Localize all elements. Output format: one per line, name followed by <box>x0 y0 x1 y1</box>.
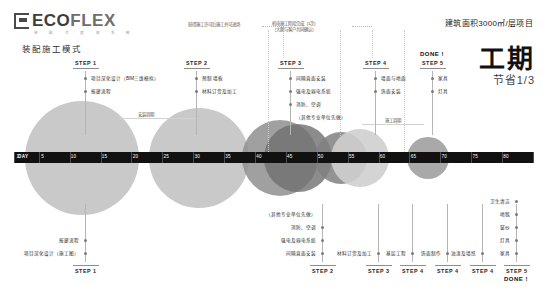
step-item-label: 卫生清洁 <box>490 199 510 205</box>
axis-tick <box>39 152 40 163</box>
logo-wordmark: ECOFLEX <box>32 12 116 30</box>
step-bullet-icon <box>84 77 87 80</box>
step-item-label: 材料订货及加工 <box>337 251 372 257</box>
step-item-label: 地毯 <box>500 212 510 218</box>
axis-tick-label: 50 <box>318 154 324 159</box>
step-bullet-icon <box>446 252 449 255</box>
step-item-label: 灯具 <box>438 89 448 95</box>
step-rule <box>504 265 530 266</box>
logo-tagline: 装 配 式 建 筑 系 统 <box>34 30 136 35</box>
connector-line <box>262 26 284 27</box>
step-item-label: 材料订货及加工 <box>202 89 237 95</box>
step-item-label: 消防、空调 <box>296 102 321 108</box>
done-badge: DONE ! <box>420 51 444 57</box>
step-bullet-icon <box>84 252 87 255</box>
step-item-label: 基层工程 <box>386 251 406 257</box>
step-rule <box>470 265 496 266</box>
step-rule <box>420 68 446 69</box>
step-item-label: 报建流程 <box>91 89 111 95</box>
step-bullet-icon <box>84 90 87 93</box>
step-bullet-icon <box>195 90 198 93</box>
step-stem <box>85 71 86 135</box>
axis-tick-label: 1 <box>17 154 20 159</box>
step-item-label: 窗纱 <box>500 225 510 231</box>
annotation-note: 安装周期 <box>138 112 154 118</box>
step-label: STEP 5 <box>422 60 443 66</box>
step-bullet-icon <box>515 239 518 242</box>
infographic-canvas: ECOFLEX 装 配 式 建 筑 系 统 装配施工模式 建筑面积3000㎡/层… <box>0 0 547 293</box>
step-bullet-icon <box>515 252 518 255</box>
step-rule <box>435 265 461 266</box>
annotation-note: 获得施工许可后施工并可进场 <box>188 22 240 28</box>
step-item-label: 饰面安装 <box>381 89 401 95</box>
step-bullet-icon <box>289 103 292 106</box>
axis-tick-label: 85 <box>534 154 540 159</box>
step-rule <box>73 265 99 266</box>
step-stem <box>432 71 433 135</box>
step-item-label: 间隔直面安装 <box>286 251 316 257</box>
step-bullet-icon <box>515 226 518 229</box>
step-item-label: 家具 <box>500 251 510 257</box>
phase-divider <box>268 30 269 158</box>
step-label: STEP 4 <box>365 60 386 66</box>
axis-tick-label: 30 <box>194 154 200 159</box>
step-bullet-icon <box>377 252 380 255</box>
axis-tick-label: 10 <box>71 154 77 159</box>
step-label: STEP 1 <box>75 268 96 274</box>
step-rule <box>400 265 426 266</box>
axis-tick-label: 55 <box>349 154 355 159</box>
step-label: STEP 3 <box>368 268 389 274</box>
axis-tick-label: 70 <box>442 154 448 159</box>
step-rule <box>278 68 304 69</box>
axis-tick-label: 40 <box>256 154 262 159</box>
axis-tick-label: 75 <box>472 154 478 159</box>
step-item-label: 墙面与地面 <box>381 76 406 82</box>
step-rule <box>363 68 389 69</box>
step-stem <box>375 71 376 135</box>
step-item-label: 间隔直面安装 <box>296 76 326 82</box>
area-note: 建筑面积3000㎡/层项目 <box>445 17 533 28</box>
step-item-label: 预制 墙板 <box>202 76 223 82</box>
step-bullet-icon <box>431 77 434 80</box>
step-bullet-icon <box>481 252 484 255</box>
logo-mark-icon <box>14 13 29 29</box>
axis-tick-label: 35 <box>225 154 231 159</box>
headline-main: 工期 <box>479 46 535 73</box>
step-bullet-icon <box>515 213 518 216</box>
logo-eco: ECO <box>32 11 70 30</box>
logo: ECOFLEX 装 配 式 建 筑 系 统 <box>14 12 144 36</box>
step-label: STEP 4 <box>402 268 423 274</box>
step-bullet-icon <box>321 252 324 255</box>
axis-tick-label: 5 <box>41 154 44 159</box>
step-label: STEP 4 <box>472 268 493 274</box>
done-badge: DONE ! <box>504 276 528 282</box>
annotation-note-line: （大题与客户共同确认） <box>272 27 318 33</box>
step-rule <box>310 265 336 266</box>
step-bullet-icon <box>195 77 198 80</box>
connector-line <box>352 26 372 27</box>
step-bullet-icon <box>321 226 324 229</box>
axis-tick <box>14 152 15 163</box>
phase-divider <box>340 30 341 158</box>
logo-flex: FLEX <box>70 11 115 30</box>
step-label: STEP 2 <box>312 268 333 274</box>
step-item-label: 强电及弱电系统 <box>296 89 331 95</box>
headline: 工期 节省1/3 <box>479 46 535 87</box>
step-item-label: 家具 <box>438 76 448 82</box>
step-item-label: 饰面制作 <box>421 251 441 257</box>
axis-tick-label: 60 <box>380 154 386 159</box>
day-axis: DAY 1510152025303540455055606570758085 <box>14 152 533 163</box>
step-bullet-icon <box>411 252 414 255</box>
step-label: STEP 2 <box>186 60 207 66</box>
step-label: STEP 4 <box>437 268 458 274</box>
step-item-label: 报建流程 <box>59 238 79 244</box>
step-bullet-icon <box>321 239 324 242</box>
step-bullet-icon <box>84 239 87 242</box>
step-bullet-icon <box>374 90 377 93</box>
step-item-label: 油漆及墙纸 <box>451 251 476 257</box>
step-label: STEP 5 <box>506 268 527 274</box>
axis-tick-label: 80 <box>503 154 509 159</box>
step-item-label: （其他专业单位先做） <box>296 115 346 121</box>
step-bullet-icon <box>431 90 434 93</box>
step-stem <box>196 71 197 135</box>
